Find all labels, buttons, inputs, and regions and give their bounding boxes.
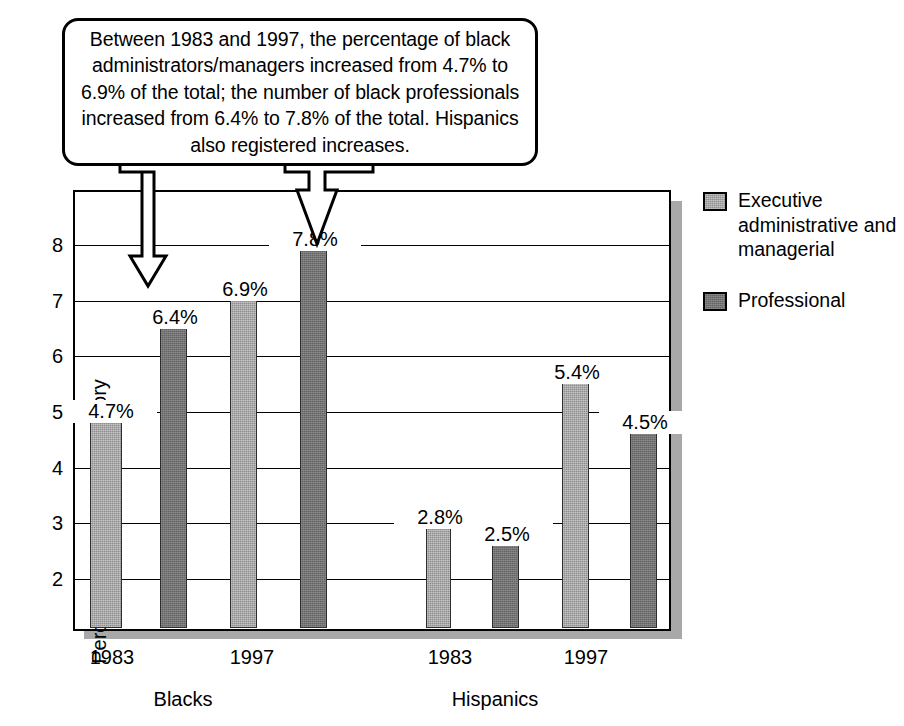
chart-legend: Executive administrative and managerial …: [703, 188, 899, 338]
callout-box: Between 1983 and 1997, the percentage of…: [62, 18, 538, 166]
ytick-3: 3: [37, 512, 63, 535]
bar-hispanics-1983-executive[interactable]: [426, 528, 451, 628]
group-label-hispanics: Hispanics: [405, 688, 585, 711]
bar-blacks-1983-professional[interactable]: [160, 328, 187, 628]
ytick-5: 5: [37, 401, 63, 424]
bar-blacks-1983-executive[interactable]: [90, 422, 122, 628]
legend-label-professional: Professional: [738, 288, 845, 313]
legend-item-executive[interactable]: Executive administrative and managerial: [703, 188, 899, 262]
bar-label-hispanics-1983-professional: 2.5%: [461, 523, 553, 546]
bar-label-hispanics-1997-executive: 5.4%: [531, 361, 623, 384]
ytick-6: 6: [37, 345, 63, 368]
bar-hispanics-1983-professional[interactable]: [492, 545, 519, 628]
bar-label-blacks-1997-executive: 6.9%: [199, 278, 291, 301]
legend-swatch-professional-icon: [703, 292, 727, 311]
ytick-4: 4: [37, 457, 63, 480]
bar-hispanics-1997-executive[interactable]: [562, 383, 589, 628]
callout-arrow-to-blacks-1983-professional: [118, 160, 188, 288]
ytick-8: 8: [37, 234, 63, 257]
legend-swatch-executive-icon: [703, 192, 727, 211]
bar-blacks-1997-executive[interactable]: [230, 300, 257, 628]
gridline-7: [75, 301, 669, 302]
xtick-blacks-1983: 1983: [67, 646, 157, 669]
bar-blacks-1997-professional[interactable]: [300, 250, 327, 628]
xtick-hispanics-1997: 1997: [541, 646, 631, 669]
bar-hispanics-1997-professional[interactable]: [630, 433, 657, 628]
bar-label-blacks-1983-professional: 6.4%: [129, 306, 221, 329]
bar-label-hispanics-1997-professional: 4.5%: [599, 411, 691, 434]
legend-label-executive: Executive administrative and managerial: [738, 188, 899, 262]
bar-label-blacks-1983-executive: 4.7%: [65, 400, 157, 423]
callout-arrow-to-blacks-1997-professional: [283, 160, 375, 246]
legend-item-professional[interactable]: Professional: [703, 288, 899, 313]
ytick-2: 2: [37, 568, 63, 591]
callout-text: Between 1983 and 1997, the percentage of…: [65, 26, 535, 159]
xtick-blacks-1997: 1997: [207, 646, 297, 669]
group-label-blacks: Blacks: [93, 688, 273, 711]
ytick-7: 7: [37, 290, 63, 313]
xtick-hispanics-1983: 1983: [405, 646, 495, 669]
